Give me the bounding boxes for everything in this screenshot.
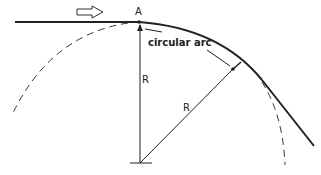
- leader-a: [145, 29, 162, 32]
- arc-label: circular arc: [148, 38, 212, 48]
- diagram-canvas: [0, 0, 321, 175]
- radius-diagonal-label: R: [183, 103, 190, 113]
- arrowhead-a: [137, 24, 143, 31]
- radius-vertical-label: R: [142, 75, 149, 85]
- point-a-dot: [137, 20, 141, 24]
- dashed-circle-left: [12, 23, 128, 115]
- direction-arrow-icon: [77, 6, 103, 18]
- radius-diagonal: [140, 70, 232, 163]
- label-leader: [207, 50, 230, 66]
- arc-point: [231, 67, 235, 71]
- exit-tangent-line: [262, 80, 314, 146]
- point-a-label: A: [135, 7, 142, 17]
